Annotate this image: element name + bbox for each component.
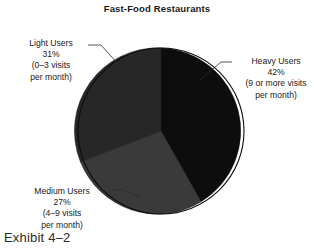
pie-chart-figure: Fast-Food Restaurants Light Users 31% (0… [0,0,314,251]
callout-medium-users-percent: 27% [14,197,110,208]
callout-heavy-users-percent: 42% [233,67,314,78]
callout-heavy-users-detail-1: (9 or more visits [233,78,314,89]
callout-heavy-users-detail-2: per month) [233,90,314,101]
callout-medium-users-detail-1: (4–9 visits [14,208,110,219]
callout-light-users: Light Users 31% (0–3 visits per month) [8,38,94,83]
callout-light-users-percent: 31% [8,49,94,60]
callout-medium-users-name: Medium Users [14,186,110,197]
callout-light-users-name: Light Users [8,38,94,49]
exhibit-caption: Exhibit 4–2 [4,229,71,246]
callout-light-users-detail-2: per month) [8,72,94,83]
callout-medium-users: Medium Users 27% (4–9 visits per month) [14,186,110,231]
callout-light-users-detail-1: (0–3 visits [8,60,94,71]
callout-heavy-users-name: Heavy Users [233,56,314,67]
callout-heavy-users: Heavy Users 42% (9 or more visits per mo… [233,56,314,101]
